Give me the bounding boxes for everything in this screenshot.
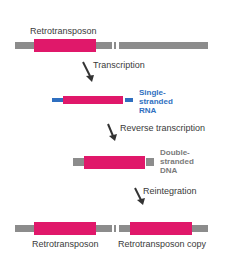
retrotransposon-copy-segment — [130, 222, 192, 235]
step-reintegration-label: Reintegration — [143, 186, 197, 196]
bottom-label-retrotransposon-copy: Retrotransposon copy — [118, 239, 206, 249]
arrow-down-icon — [0, 0, 229, 259]
retrotransposon-segment — [34, 222, 96, 235]
bottom-label-retrotransposon: Retrotransposon — [32, 239, 99, 249]
